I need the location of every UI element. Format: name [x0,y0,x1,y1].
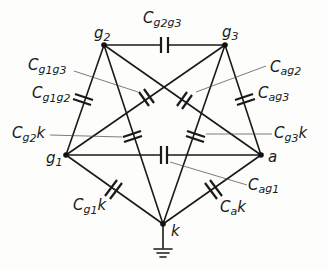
label-cg1k: Cg1k [73,196,107,217]
label-a: a [268,148,277,166]
label-cg1g3: Cg1g3 [28,56,66,77]
label-cag3: Cag3 [258,84,289,104]
label-g3: g3 [222,23,239,43]
node-g1 [63,152,69,158]
node-k [160,221,166,227]
capacitance-diagram: g2 g3 g1 a k Cg2g3 Cg1g3 Cg1g2 Cag2 Cag3… [0,0,327,270]
label-k: k [171,222,181,240]
label-g1: g1 [46,149,63,169]
label-cg3k: Cg3k [274,124,308,145]
capacitor-plates [73,37,255,199]
label-g2: g2 [94,24,111,44]
label-cag1: Cag1 [248,176,279,196]
label-cg2g3: Cg2g3 [143,9,181,30]
ground-icon [154,249,172,257]
label-cak: Cak [220,198,247,218]
label-cag2: Cag2 [270,58,301,78]
label-cg1g2: Cg1g2 [32,84,70,105]
node-a [258,152,264,158]
label-cg2k: Cg2k [12,124,46,145]
diagram-canvas: g2 g3 g1 a k Cg2g3 Cg1g3 Cg1g2 Cag2 Cag3… [0,0,327,270]
node-g3 [222,42,228,48]
